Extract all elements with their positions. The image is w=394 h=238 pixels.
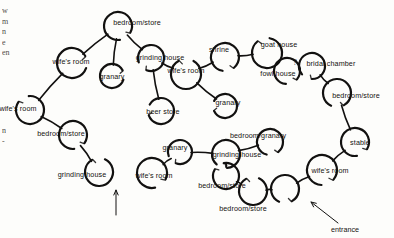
margin-text-lower-left: n - [2,126,6,147]
wall-link [239,145,259,150]
hut-circle[interactable] [57,48,86,78]
hut-circle[interactable] [214,94,237,118]
wall-link [238,54,253,56]
entrance-label: entrance [331,225,359,234]
doorway-jamb [120,71,123,73]
wall-link [199,62,213,68]
wall-link [333,150,345,161]
doorway-jamb [258,41,262,44]
hut-circle[interactable] [239,178,267,205]
wall-link [342,105,351,130]
wall-link [113,39,116,65]
hut-circle[interactable] [85,159,113,186]
doorway-jamb [329,178,333,180]
hut-circle[interactable] [171,61,201,89]
doorway-jamb [179,61,182,64]
wall-link [297,176,310,183]
doorway-jamb [214,108,217,110]
hut-circle[interactable] [271,175,299,202]
hut-circle[interactable] [323,79,351,106]
doorway-jamb [310,75,311,79]
annotation-arrow-shaft [311,202,338,223]
wall-link [191,152,213,153]
hut-circle[interactable] [100,64,123,88]
hut-circle[interactable] [168,140,192,164]
doorway-jamb [161,179,165,180]
annotation-arrows-layer [114,190,338,223]
wall-link [197,83,217,99]
hut-circle[interactable] [257,129,283,155]
hut-circle[interactable] [16,96,44,124]
wall-link [81,146,92,162]
doorway-jamb [93,160,96,163]
wall-link [83,34,108,54]
doorway-jamb [293,78,296,80]
doorway-jamb [247,179,250,182]
doorway-jamb [19,101,23,102]
hut-circle[interactable] [137,158,167,188]
hut-circle[interactable] [149,98,174,124]
doorway-jamb [82,57,85,60]
wall-link [127,35,142,50]
wall-link [41,117,62,129]
homestead-plan-figure: bedroom/storewife's roomgranarygrinding … [0,0,394,238]
doorway-jamb [275,150,278,152]
margin-text-upper-left: w m n e en [2,6,10,59]
doorway-jamb [230,66,233,68]
hut-circles-layer [16,12,369,205]
hut-circle[interactable] [211,43,239,71]
hut-circle[interactable] [138,45,164,71]
doorway-jamb [80,142,84,143]
doorway-jamb [149,113,152,115]
wall-link [153,70,159,99]
doorway-jamb [288,198,291,201]
wall-link [39,73,63,100]
hut-circle[interactable] [59,121,87,149]
hut-circle[interactable] [299,53,325,79]
plan-drawing [0,0,394,238]
hut-circle[interactable] [341,128,369,156]
